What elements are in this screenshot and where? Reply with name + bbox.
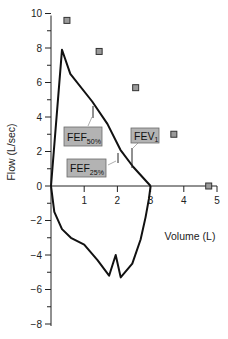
fef50-subscript: 50%	[87, 138, 101, 145]
fef25-label: FEF	[70, 162, 90, 174]
y-axis-title: Flow (L/sec)	[5, 123, 17, 180]
y-tick-label: −8	[31, 319, 43, 330]
y-tick-label: −4	[31, 250, 43, 261]
y-tick-label: 10	[31, 8, 43, 19]
fev1-annotation: FEV1	[131, 128, 159, 168]
y-tick-label: 2	[36, 146, 42, 157]
inspiratory-curve	[51, 186, 151, 277]
y-tick-label: 8	[36, 43, 42, 54]
fef50-annotation: FEF50%	[64, 106, 102, 146]
x-tick-label: 2	[115, 195, 121, 206]
y-tick-label: 6	[36, 77, 42, 88]
x-tick-label: 1	[81, 195, 87, 206]
fev1-subscript: 1	[154, 136, 158, 143]
fev1-label: FEV	[134, 130, 154, 142]
y-tick-label: 4	[36, 112, 42, 123]
x-axis-title: Volume (L)	[165, 230, 216, 242]
square-marker	[133, 85, 139, 91]
y-axis	[45, 14, 51, 327]
y-tick-label: −2	[31, 215, 43, 226]
x-axis	[51, 186, 217, 192]
x-tick-labels: 12345	[81, 195, 220, 206]
flow-volume-chart: 1086420−2−4−6−8 12345 Flow (L/sec) Volum…	[0, 0, 228, 339]
square-marker	[64, 17, 70, 23]
y-tick-label: 0	[36, 181, 42, 192]
fef25-subscript: 25%	[90, 169, 104, 176]
square-marker	[96, 48, 102, 54]
square-marker	[171, 131, 177, 137]
y-tick-label: −6	[31, 284, 43, 295]
square-marker	[206, 183, 212, 189]
fef25-annotation: FEF25%	[67, 153, 118, 177]
fef50-label: FEF	[67, 131, 87, 143]
y-tick-labels: 1086420−2−4−6−8	[31, 8, 43, 330]
x-tick-label: 5	[214, 195, 220, 206]
x-tick-label: 4	[181, 195, 187, 206]
